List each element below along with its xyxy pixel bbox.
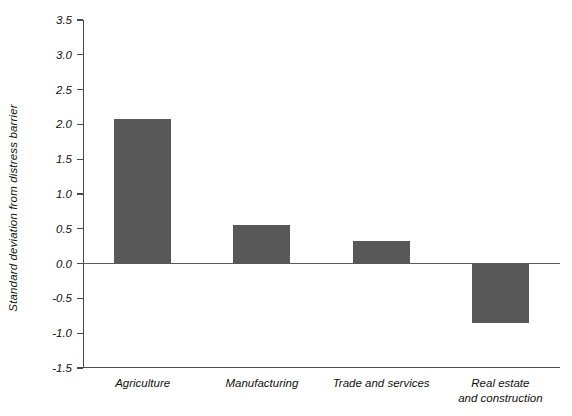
y-tick-label: 2.5: [56, 84, 72, 96]
bar-chart: Standard deviation from distress barrier…: [0, 0, 572, 416]
y-tick: -1.5: [77, 367, 83, 368]
y-tick-label: 3.5: [56, 14, 72, 26]
y-tick-label: -0.5: [52, 292, 72, 304]
bar: [472, 264, 529, 323]
y-axis-title: Standard deviation from distress barrier: [0, 0, 26, 416]
y-tick: -1.0: [77, 333, 83, 334]
y-tick: 0.0: [77, 263, 83, 264]
bar: [233, 225, 290, 263]
y-tick-label: 2.0: [56, 118, 72, 130]
y-axis-title-label: Standard deviation from distress barrier: [7, 104, 19, 311]
y-tick-label: 0.5: [56, 223, 72, 235]
plot-area: 3.53.02.52.01.51.00.50.0-0.5-1.0-1.5 Agr…: [83, 20, 560, 368]
y-tick-label: 1.5: [56, 153, 72, 165]
y-tick-label: 1.0: [56, 188, 72, 200]
y-tick: 2.5: [77, 89, 83, 90]
y-tick-label: -1.0: [52, 327, 72, 339]
y-tick-label: 3.0: [56, 49, 72, 61]
x-axis-category-label: Agriculture: [83, 376, 202, 391]
y-tick: 3.0: [77, 54, 83, 55]
y-tick: 0.5: [77, 228, 83, 229]
bar: [114, 119, 171, 264]
bar: [353, 241, 410, 263]
x-axis-category-label: Manufacturing: [202, 376, 321, 391]
y-tick: -0.5: [77, 298, 83, 299]
x-axis-category-label: Real estate and construction: [441, 376, 560, 406]
x-axis-spine: [83, 367, 560, 368]
y-tick: 1.0: [77, 193, 83, 194]
y-tick: 2.0: [77, 124, 83, 125]
y-tick-label: -1.5: [52, 362, 72, 374]
x-axis-category-label: Trade and services: [322, 376, 441, 391]
y-tick: 1.5: [77, 159, 83, 160]
y-tick-label: 0.0: [56, 258, 72, 270]
y-axis-spine: [83, 20, 84, 368]
y-tick: 3.5: [77, 19, 83, 20]
